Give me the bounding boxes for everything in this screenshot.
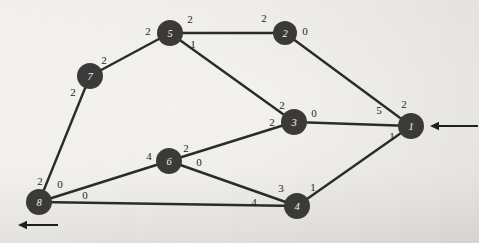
node-label: 7 <box>87 71 93 82</box>
graph-edge <box>170 33 294 122</box>
graph-node-4[interactable]: 4 <box>284 193 310 219</box>
edge-weight-label: 2 <box>37 175 43 187</box>
node-label: 6 <box>166 156 172 167</box>
graph-edge <box>285 33 411 126</box>
graph-node-7[interactable]: 7 <box>77 63 103 89</box>
graph-node-3[interactable]: 3 <box>281 109 307 135</box>
edge-weight-label: 4 <box>251 196 257 208</box>
arrow-into-node-1-head <box>430 122 439 130</box>
graph-edge <box>39 76 90 202</box>
edge-weight-label: 2 <box>183 142 189 154</box>
edge-weight-label: 1 <box>310 181 316 193</box>
edges-layer <box>39 33 411 206</box>
figure-canvas: 52731684 2222120502222204040311 <box>0 0 479 243</box>
edge-weight-label: 1 <box>389 130 395 142</box>
edge-weight-label: 0 <box>57 178 63 190</box>
edge-weight-label: 1 <box>190 38 196 50</box>
graph-node-5[interactable]: 5 <box>157 20 183 46</box>
graph-node-6[interactable]: 6 <box>156 148 182 174</box>
node-label: 5 <box>167 28 172 39</box>
edge-weight-label: 2 <box>261 12 267 24</box>
edge-weight-label: 2 <box>279 99 285 111</box>
graph-edge <box>39 202 297 206</box>
graph-node-1[interactable]: 1 <box>398 113 424 139</box>
edge-weight-label: 2 <box>187 13 193 25</box>
graph-edge <box>294 122 411 126</box>
edge-weight-label: 4 <box>146 150 152 162</box>
edge-weight-label: 2 <box>101 54 107 66</box>
edge-weight-label: 5 <box>376 104 382 116</box>
node-label: 8 <box>36 197 42 208</box>
graph-node-2[interactable]: 2 <box>273 21 297 45</box>
edge-weight-label: 2 <box>70 86 76 98</box>
edge-weight-label: 2 <box>145 25 151 37</box>
graph-svg: 52731684 2222120502222204040311 <box>0 0 479 243</box>
edge-weight-label: 0 <box>82 189 88 201</box>
arrow-out-of-node-8-head <box>18 221 27 229</box>
edge-weight-label: 2 <box>269 116 275 128</box>
node-label: 1 <box>408 121 413 132</box>
node-label: 2 <box>282 28 288 39</box>
edge-weight-label: 2 <box>401 98 407 110</box>
graph-node-8[interactable]: 8 <box>26 189 52 215</box>
edge-weight-label: 0 <box>311 107 317 119</box>
node-label: 3 <box>290 117 296 128</box>
edge-weight-label: 0 <box>196 156 202 168</box>
edge-weight-label: 0 <box>302 25 308 37</box>
edge-weight-label: 3 <box>278 182 284 194</box>
node-label: 4 <box>294 201 300 212</box>
